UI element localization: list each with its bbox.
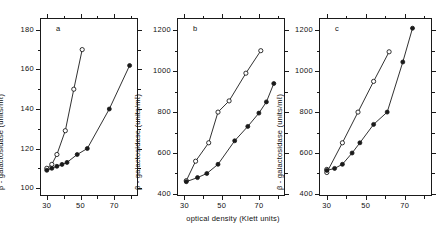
data-point-filled-circles xyxy=(385,110,389,114)
data-point-filled-circles xyxy=(340,162,344,166)
curve-filled-circles xyxy=(327,28,413,170)
data-point-filled-circles xyxy=(372,122,376,126)
series-layer xyxy=(0,0,437,236)
data-point-filled-circles xyxy=(411,26,415,30)
data-point-filled-circles xyxy=(350,151,354,155)
data-point-filled-circles xyxy=(401,60,405,64)
data-point-filled-circles xyxy=(358,141,362,145)
x-axis-title: optical density (Klett units) xyxy=(166,214,300,223)
data-point-open-circles xyxy=(356,110,360,114)
data-point-open-circles xyxy=(340,141,344,145)
figure-multipanel-chart: a100120140160180305070β - galactosidase … xyxy=(0,0,437,236)
data-point-open-circles xyxy=(372,79,376,83)
data-point-filled-circles xyxy=(325,168,329,172)
data-point-filled-circles xyxy=(333,166,337,170)
data-point-open-circles xyxy=(387,50,391,54)
panel-c: c40060080010001200305070β - galactosidas… xyxy=(0,0,437,236)
